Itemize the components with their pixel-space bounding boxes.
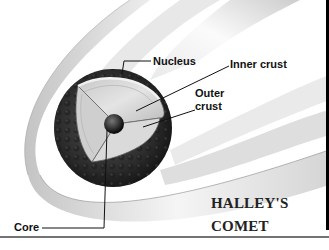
label-outer-crust-line2: crust	[195, 100, 222, 113]
label-outer-crust-line1: Outer	[195, 87, 224, 100]
label-inner-crust: Inner crust	[230, 58, 287, 71]
title-line-2: COMET	[211, 215, 288, 238]
label-nucleus: Nucleus	[153, 55, 196, 68]
label-core: Core	[14, 221, 39, 234]
title-line-1: HALLEY'S	[211, 192, 288, 215]
figure-title: HALLEY'S COMET	[211, 192, 288, 238]
halleys-comet-diagram: Nucleus Inner crust Outer crust Core HAL…	[0, 0, 329, 250]
